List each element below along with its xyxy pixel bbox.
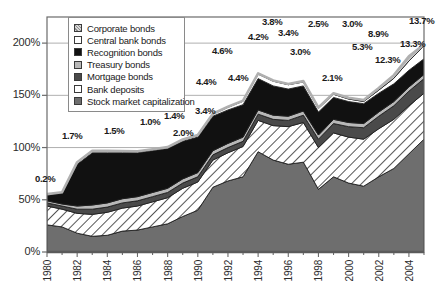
legend-item[interactable]: Bank deposits — [74, 83, 178, 95]
legend-label: Mortgage bonds — [87, 71, 153, 82]
legend-item[interactable]: Treasury bonds — [74, 59, 178, 71]
data-point-label: 4.6% — [212, 45, 232, 56]
data-point-label: 2.5% — [308, 18, 328, 29]
legend-label: Bank deposits — [87, 84, 144, 95]
legend-label: Recognition bonds — [87, 47, 162, 58]
data-point-label: 4.4% — [196, 76, 216, 87]
x-axis-tick-label: 1984 — [102, 260, 113, 281]
data-point-label: 13.7% — [409, 15, 434, 26]
legend-swatch-icon — [74, 97, 82, 105]
legend-item[interactable]: Central bank bonds — [74, 34, 178, 46]
legend-label: Treasury bonds — [87, 59, 150, 70]
x-axis-tick-label: 1982 — [72, 260, 83, 281]
legend-item[interactable]: Stock market capitalization — [74, 95, 178, 107]
data-point-label: 1.0% — [140, 116, 160, 127]
legend-swatch-icon — [74, 85, 82, 93]
x-axis-tick-label: 1986 — [132, 260, 143, 281]
x-axis-tick-label: 2002 — [374, 260, 385, 281]
y-axis-tick-label: 200% — [0, 36, 40, 48]
legend-item[interactable]: Corporate bonds — [74, 22, 178, 34]
data-point-label: 2.0% — [173, 127, 193, 138]
y-axis-tick-label: 100% — [0, 141, 40, 153]
legend-swatch-icon — [74, 61, 82, 69]
legend-swatch-icon — [74, 24, 82, 32]
x-axis-tick-label: 2000 — [344, 260, 355, 281]
legend-label: Stock market capitalization — [87, 96, 195, 107]
data-point-label: 3.8% — [262, 16, 282, 27]
legend: Corporate bondsCentral bank bondsRecogni… — [68, 17, 185, 112]
legend-label: Corporate bonds — [87, 23, 155, 34]
y-axis-tick-label: 50% — [0, 193, 40, 205]
data-point-label: 1.5% — [104, 125, 124, 136]
data-point-label: 2.1% — [322, 72, 342, 83]
x-axis-tick-label: 1994 — [253, 260, 264, 281]
legend-item[interactable]: Recognition bonds — [74, 46, 178, 58]
x-axis-tick-label: 1988 — [163, 260, 174, 281]
data-point-label: 8.9% — [368, 28, 388, 39]
y-axis-tick-label: 150% — [0, 88, 40, 100]
legend-swatch-icon — [74, 48, 82, 56]
stacked-area-chart: 0%50%100%150%200% 1980198219841986198819… — [0, 0, 447, 293]
data-point-label: 3.0% — [342, 18, 362, 29]
data-point-label: 4.2% — [248, 31, 268, 42]
x-axis-tick-label: 1980 — [42, 260, 53, 281]
data-point-label: 4.4% — [228, 72, 248, 83]
x-axis-tick-label: 1992 — [223, 260, 234, 281]
x-axis-tick-label: 1990 — [193, 260, 204, 281]
legend-item[interactable]: Mortgage bonds — [74, 71, 178, 83]
y-axis-tick-label: 0% — [0, 245, 40, 257]
x-axis-tick-label: 1996 — [283, 260, 294, 281]
legend-label: Central bank bonds — [87, 35, 166, 46]
data-point-label: 1.7% — [62, 130, 82, 141]
x-axis-tick-label: 1998 — [313, 260, 324, 281]
data-point-label: 3.4% — [278, 27, 298, 38]
legend-swatch-icon — [74, 36, 82, 44]
data-point-label: 13.3% — [400, 38, 425, 49]
x-axis-tick-label: 2004 — [404, 260, 415, 281]
data-point-label: 3.0% — [290, 46, 310, 57]
data-point-label: 5.3% — [352, 41, 372, 52]
data-point-label: 3.4% — [195, 105, 215, 116]
legend-swatch-icon — [74, 73, 82, 81]
data-point-label: 0.2% — [35, 173, 55, 184]
data-point-label: 12.3% — [375, 54, 400, 65]
